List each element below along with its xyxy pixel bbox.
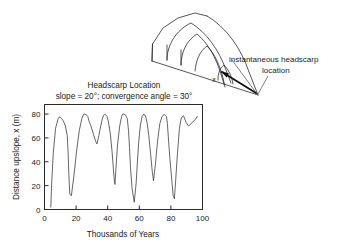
fan-outer-crest bbox=[152, 13, 207, 61]
x-tick-label: 0 bbox=[42, 214, 47, 223]
y-axis-ticks: 020406080 bbox=[32, 110, 49, 214]
x-tick-label: 80 bbox=[166, 214, 175, 223]
x-tick-label: 100 bbox=[196, 214, 210, 223]
y-tick-label: 40 bbox=[32, 158, 41, 167]
annotation-leader-2 bbox=[258, 76, 268, 94]
fan-arc-3 bbox=[181, 34, 224, 84]
figure-root: x instantaneous headscarp location Heads… bbox=[0, 0, 341, 250]
chart-subtitle: slope = 20°; convergence angle = 30° bbox=[56, 92, 193, 101]
headscarp-annotation-line1: instantaneous headscarp bbox=[229, 55, 319, 64]
fan-base-line bbox=[152, 61, 258, 95]
annotation-leader-1 bbox=[232, 60, 257, 94]
fan-flank-left bbox=[152, 44, 153, 61]
y-tick-label: 20 bbox=[32, 182, 41, 191]
x-axis-label: Thousands of Years bbox=[87, 230, 159, 239]
y-axis-label: Distance upslope, x (m) bbox=[12, 114, 21, 200]
x-axis-ticks: 020406080100 bbox=[42, 206, 209, 223]
y-tick-label: 0 bbox=[36, 206, 41, 215]
chart-title: Headscarp Location bbox=[88, 81, 161, 90]
headscarp-location-series bbox=[51, 114, 197, 207]
y-tick-label: 60 bbox=[32, 134, 41, 143]
distance-x-label: x bbox=[212, 76, 216, 83]
x-tick-label: 60 bbox=[135, 214, 144, 223]
fan-arc-4 bbox=[195, 46, 225, 87]
headscarp-annotation-line2: location bbox=[262, 66, 290, 75]
headscarp-schematic: x instantaneous headscarp location bbox=[152, 13, 319, 95]
figure-svg: x instantaneous headscarp location Heads… bbox=[0, 0, 341, 250]
x-tick-label: 40 bbox=[103, 214, 112, 223]
x-tick-label: 20 bbox=[72, 214, 81, 223]
y-tick-label: 80 bbox=[32, 110, 41, 119]
